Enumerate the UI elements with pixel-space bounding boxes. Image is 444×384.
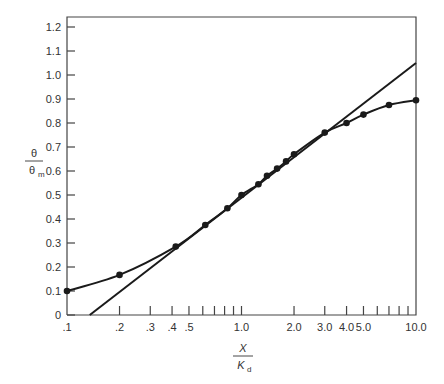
data-point-marker bbox=[386, 102, 393, 109]
fit-line bbox=[90, 63, 416, 315]
y-axis-label: θθm bbox=[25, 147, 45, 179]
x-tick-label: 5.0 bbox=[356, 321, 371, 333]
x-label-numerator: X bbox=[238, 342, 247, 354]
y-tick-label: 1.1 bbox=[46, 45, 61, 57]
x-tick-label: .2 bbox=[115, 321, 124, 333]
x-tick-label: 1.0 bbox=[234, 321, 249, 333]
data-point-marker bbox=[343, 120, 350, 127]
x-tick-label: .5 bbox=[184, 321, 193, 333]
y-tick-label: 0.6 bbox=[46, 165, 61, 177]
y-tick-label: 0.2 bbox=[46, 261, 61, 273]
plot-frame bbox=[67, 17, 416, 315]
y-axis-ticks: 00.10.20.30.40.50.60.70.80.91.01.11.2 bbox=[46, 21, 75, 321]
y-label-subscript: m bbox=[38, 170, 45, 179]
x-tick-label: 4.0 bbox=[339, 321, 354, 333]
chart: 00.10.20.30.40.50.60.70.80.91.01.11.2 .1… bbox=[0, 0, 444, 384]
data-point-marker bbox=[360, 111, 367, 118]
data-series bbox=[64, 63, 420, 315]
y-tick-label: 0.5 bbox=[46, 189, 61, 201]
x-axis-label: XKd bbox=[233, 342, 253, 374]
y-tick-label: 0.1 bbox=[46, 285, 61, 297]
y-tick-label: 0.9 bbox=[46, 93, 61, 105]
y-tick-label: 0.7 bbox=[46, 141, 61, 153]
x-tick-label: .3 bbox=[146, 321, 155, 333]
y-tick-label: 0 bbox=[55, 309, 61, 321]
x-tick-label: .1 bbox=[62, 321, 71, 333]
y-tick-label: 1.0 bbox=[46, 69, 61, 81]
x-tick-label: 10.0 bbox=[405, 321, 426, 333]
data-point-marker bbox=[64, 288, 71, 295]
y-tick-label: 0.4 bbox=[46, 213, 61, 225]
data-point-marker bbox=[413, 97, 420, 104]
data-point-marker bbox=[116, 272, 123, 279]
plot-border bbox=[67, 17, 416, 315]
x-axis-ticks: .1.2.3.4.51.02.03.04.05.010.0 bbox=[62, 306, 426, 333]
y-tick-label: 1.2 bbox=[46, 21, 61, 33]
x-tick-label: 3.0 bbox=[317, 321, 332, 333]
x-tick-label: 2.0 bbox=[286, 321, 301, 333]
x-label-subscript: d bbox=[247, 365, 251, 374]
y-label-numerator: θ bbox=[31, 147, 37, 159]
x-tick-label: .4 bbox=[167, 321, 176, 333]
y-tick-label: 0.3 bbox=[46, 237, 61, 249]
x-label-denominator: K bbox=[237, 359, 245, 371]
y-tick-label: 0.8 bbox=[46, 117, 61, 129]
y-label-denominator: θ bbox=[29, 164, 35, 176]
